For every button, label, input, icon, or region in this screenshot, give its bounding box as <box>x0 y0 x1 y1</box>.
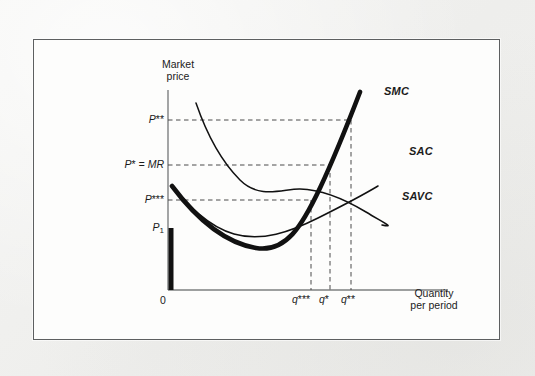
price-tick-p-one-symbol: P <box>153 221 160 233</box>
price-tick-p-star-symbol: P <box>125 158 132 170</box>
y-axis-title-line2: price <box>167 70 190 82</box>
curve-label-savc: SAVC <box>402 190 433 202</box>
x-axis-title-line2: per period <box>410 299 457 311</box>
quantity-tick-q-double-star: q** <box>341 294 355 306</box>
quantity-tick-q-triple-star-stars: *** <box>298 293 310 305</box>
price-tick-p-double-star-stars: ** <box>156 113 164 125</box>
x-axis-title: Quantity per period <box>386 288 482 312</box>
x-axis-title-line1: Quantity <box>414 287 453 299</box>
price-tick-p-double-star: P** <box>74 114 164 126</box>
curve-label-sac: SAC <box>409 145 433 157</box>
y-axis-title-line1: Market <box>162 58 194 70</box>
reference-lines-group <box>168 120 351 290</box>
sac-curve <box>196 103 388 226</box>
origin-label: 0 <box>160 295 166 307</box>
quantity-tick-q-star: q* <box>319 294 329 306</box>
price-tick-p-star-mr: P* = MR <box>54 159 164 171</box>
figure-frame: Market price Quantity per period P** P* … <box>33 39 500 340</box>
page-root: Market price Quantity per period P** P* … <box>0 0 535 376</box>
price-tick-p-triple-star-symbol: P <box>145 193 152 205</box>
price-tick-p-triple-star: P*** <box>74 194 164 206</box>
price-tick-p-one-subscript: 1 <box>160 226 164 235</box>
curves-group <box>172 92 388 249</box>
quantity-tick-q-double-star-stars: ** <box>347 293 355 305</box>
y-axis-title: Market price <box>142 59 214 83</box>
price-tick-p-star-mr-suffix: = MR <box>136 158 164 170</box>
quantity-tick-q-triple-star: q*** <box>292 294 310 306</box>
quantity-tick-q-star-stars: * <box>325 293 329 305</box>
curve-label-smc: SMC <box>384 85 409 97</box>
price-tick-p-double-star-symbol: P <box>149 113 156 125</box>
price-tick-p-triple-star-stars: *** <box>152 193 164 205</box>
savc-curve <box>172 186 378 237</box>
chart-plot-area: Market price Quantity per period P** P* … <box>34 40 499 339</box>
price-tick-p-one: P1 <box>74 222 164 236</box>
